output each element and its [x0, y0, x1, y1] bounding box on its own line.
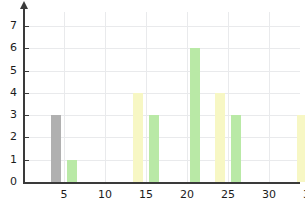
bar	[67, 160, 77, 182]
y-axis-arrow-icon	[20, 1, 28, 9]
x-axis-tick-label: 35	[298, 189, 305, 200]
x-axis-tick-label: 25	[216, 189, 240, 200]
y-axis-tick-label: 7	[3, 20, 17, 31]
x-axis-tick-label: 30	[257, 189, 281, 200]
bar	[215, 93, 225, 182]
y-axis-tick	[25, 71, 29, 72]
bar	[190, 48, 200, 182]
y-axis-tick	[25, 48, 29, 49]
y-axis-tick-label: 1	[3, 154, 17, 165]
y-axis-tick-label: 0	[3, 176, 17, 187]
y-axis-tick	[25, 26, 29, 27]
x-axis-tick-label: 20	[175, 189, 199, 200]
y-axis-line	[23, 8, 25, 183]
y-axis-tick-label: 2	[3, 131, 17, 142]
gridline-vertical	[187, 12, 188, 182]
y-axis-tick	[25, 93, 29, 94]
x-axis-line	[23, 182, 300, 184]
bar	[51, 115, 61, 182]
bar	[133, 93, 143, 182]
gridline-vertical	[146, 12, 147, 182]
gridline-vertical	[269, 12, 270, 182]
bar	[297, 115, 305, 182]
x-axis-tick-label: 10	[93, 189, 117, 200]
y-axis-tick	[25, 115, 29, 116]
plot-area: 01234567 5101520253035	[0, 0, 305, 205]
bar	[231, 115, 241, 182]
y-axis-tick-label: 5	[3, 65, 17, 76]
bar	[149, 115, 159, 182]
y-axis-tick-label: 6	[3, 42, 17, 53]
y-axis-tick	[25, 160, 29, 161]
gridline-vertical	[228, 12, 229, 182]
y-axis-tick	[25, 182, 29, 183]
y-axis-tick-label: 3	[3, 109, 17, 120]
gridline-vertical	[64, 12, 65, 182]
gridline-vertical	[105, 12, 106, 182]
x-axis-tick-label: 5	[52, 189, 76, 200]
bar-chart: 01234567 5101520253035	[0, 0, 305, 205]
x-axis-tick-label: 15	[134, 189, 158, 200]
y-axis-tick	[25, 137, 29, 138]
y-axis-tick-label: 4	[3, 87, 17, 98]
